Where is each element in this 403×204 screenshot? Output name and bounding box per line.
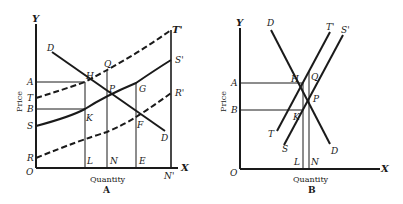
point-label-g: G [139, 84, 146, 94]
curve-label-s-prime-a: S' [175, 55, 184, 65]
x-axis-label-b: X [380, 163, 390, 174]
diagram-canvas: Y X O A T B S R L N E N' H Q P G K F D D… [0, 0, 403, 204]
curve-label-t-prime-b: T' [326, 22, 334, 32]
curve-label-r-prime-a: R' [174, 88, 184, 98]
y-axis-title-b: Price [219, 91, 228, 112]
supply-curve-b [284, 35, 343, 145]
curve-r-dashed [36, 93, 171, 158]
quantity-label-l-b: L [293, 157, 300, 167]
quantity-label-l: L [86, 156, 93, 166]
point-label-f: F [136, 120, 144, 130]
y-axis-label-a: Y [32, 13, 40, 24]
curve-label-s-b: S [282, 144, 288, 154]
point-label-h-b: H [290, 74, 299, 84]
quantity-label-n-prime: N' [163, 171, 174, 181]
point-label-h: H [85, 71, 94, 81]
price-label-t: T [27, 93, 34, 103]
curve-label-d-top-a: D [46, 43, 54, 53]
x-axis-label-a: X [180, 162, 190, 173]
quantity-label-n-b: N [310, 157, 320, 167]
point-label-k-b: K [292, 112, 301, 122]
curve-label-t-prime-a: T' [172, 24, 183, 35]
caption-b: B [308, 185, 316, 195]
price-label-b: B [26, 104, 34, 114]
price-label-r: R [26, 153, 34, 163]
x-axis-title-a: Quantity [90, 175, 126, 184]
y-axis-title-a: Price [15, 91, 24, 112]
curve-label-t-b: T [268, 129, 275, 139]
price-label-a: A [26, 77, 34, 87]
diagram-b [240, 28, 380, 169]
point-label-q: Q [104, 59, 112, 69]
price-label-b-b: B [230, 105, 238, 115]
origin-label-b: O [230, 168, 238, 178]
x-axis-title-b: Quantity [293, 175, 329, 184]
point-label-k: K [85, 113, 94, 123]
point-label-p: P [108, 84, 116, 94]
origin-label-a: O [26, 167, 34, 177]
supply-curve-s [36, 60, 171, 126]
quantity-label-e: E [138, 156, 146, 166]
quantity-label-n: N [109, 156, 119, 166]
diagram-a [36, 24, 178, 168]
curve-label-d-bottom-a: D [160, 133, 168, 143]
price-label-s: S [27, 121, 33, 131]
point-label-p-b: P [312, 94, 320, 104]
curve-label-s-prime-b: S' [341, 25, 350, 35]
point-label-q-b: Q [311, 72, 319, 82]
y-axis-label-b: Y [236, 17, 244, 28]
caption-a: A [102, 185, 111, 195]
curve-label-d-bottom-b: D [330, 146, 338, 156]
curve-label-d-top-b: D [266, 18, 274, 28]
price-label-a-b: A [230, 78, 238, 88]
